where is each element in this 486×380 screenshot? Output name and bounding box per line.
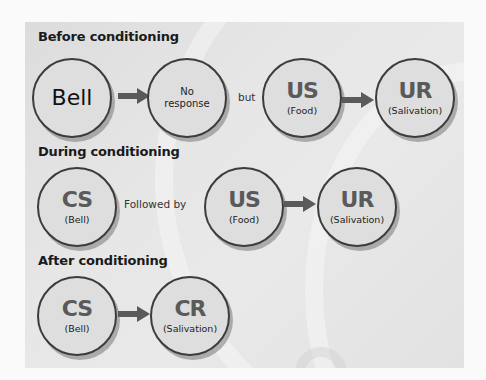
connector-followed-by: Followed by xyxy=(124,198,186,210)
section-title-during: During conditioning xyxy=(38,144,180,159)
node-us-food: US (Food) xyxy=(262,58,342,138)
node-abbr: CR xyxy=(174,298,205,320)
node-label: No xyxy=(180,86,194,98)
node-label: response xyxy=(164,98,209,110)
node-sub: (Bell) xyxy=(64,323,89,334)
node-ur-salivation: UR (Salivation) xyxy=(375,58,455,138)
node-abbr: US xyxy=(228,189,260,211)
node-abbr: UR xyxy=(341,189,374,211)
node-sub: (Bell) xyxy=(64,214,89,225)
node-ur-salivation: UR (Salivation) xyxy=(317,167,397,247)
node-cs-bell: CS (Bell) xyxy=(37,276,117,356)
node-sub: (Food) xyxy=(229,214,259,225)
node-sub: (Food) xyxy=(287,105,317,116)
node-bell: Bell xyxy=(32,58,112,138)
section-title-before: Before conditioning xyxy=(38,29,179,44)
node-abbr: CS xyxy=(62,189,92,211)
arrow-icon xyxy=(118,306,150,322)
node-sub: (Salivation) xyxy=(330,214,384,225)
node-sub: (Salivation) xyxy=(388,105,442,116)
arrow-icon xyxy=(284,196,316,212)
arrow-icon xyxy=(342,92,374,108)
node-abbr: UR xyxy=(399,80,432,102)
node-label: Bell xyxy=(52,87,93,109)
node-sub: (Salivation) xyxy=(163,323,217,334)
node-no-response: No response xyxy=(147,58,227,138)
node-abbr: CS xyxy=(62,298,92,320)
arrow-icon xyxy=(118,88,150,104)
node-abbr: US xyxy=(286,80,318,102)
node-us-food: US (Food) xyxy=(204,167,284,247)
node-cs-bell: CS (Bell) xyxy=(37,167,117,247)
node-cr-salivation: CR (Salivation) xyxy=(150,276,230,356)
section-title-after: After conditioning xyxy=(38,253,168,268)
connector-but: but xyxy=(238,91,255,103)
